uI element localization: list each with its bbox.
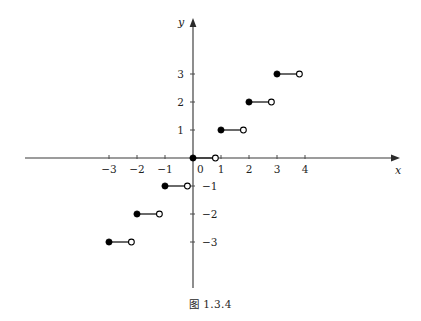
figure-container: −3−2−101234321−1−2−3 xy 图 1.3.4 [0,0,421,321]
x-tick-label--3: −3 [101,163,116,175]
open-endpoint-dot-1 [157,211,163,217]
closed-endpoint-dot-6 [274,71,280,77]
open-endpoint-dot-5 [269,99,275,105]
y-tick-label-2: 2 [177,96,184,108]
y-tick-label-1: 1 [177,124,184,136]
x-tick-label-1: 1 [218,163,225,175]
open-endpoint-dot-6 [297,71,303,77]
x-axis-arrowhead [391,155,400,162]
figure-caption: 图 1.3.4 [0,296,421,311]
y-tick-label--3: −3 [202,236,217,248]
open-endpoint-dot-3 [213,155,219,161]
x-tick-label-0: 0 [197,163,204,175]
y-tick-label-3: 3 [177,68,184,80]
x-axis-label: x [395,164,402,177]
axis-names-group: xy [177,16,402,177]
closed-endpoint-dot-5 [246,99,252,105]
y-axis-label: y [177,16,185,29]
y-tick-label--2: −2 [202,208,217,220]
x-tick-label-3: 3 [274,163,281,175]
x-tick-label-4: 4 [302,163,309,175]
x-tick-label--2: −2 [129,163,144,175]
closed-endpoint-dot-0 [106,239,112,245]
y-tick-label--1: −1 [202,180,217,192]
x-tick-label-2: 2 [246,163,253,175]
step-function-plot: −3−2−101234321−1−2−3 xy [0,0,421,321]
open-endpoint-dot-2 [185,183,191,189]
closed-endpoint-dot-1 [134,211,140,217]
closed-endpoint-dot-3 [190,155,196,161]
y-axis-arrowhead [190,18,197,27]
closed-endpoint-dot-2 [162,183,168,189]
open-endpoint-dot-0 [129,239,135,245]
x-tick-label--1: −1 [157,163,172,175]
open-endpoint-dot-4 [241,127,247,133]
closed-endpoint-dot-4 [218,127,224,133]
